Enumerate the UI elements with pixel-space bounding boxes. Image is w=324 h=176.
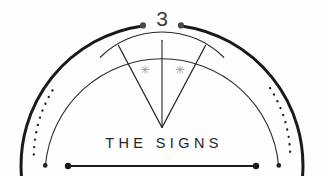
star-icon-left: ✳ bbox=[140, 63, 150, 77]
baseline-dot-right bbox=[253, 163, 259, 169]
inner-arc-cap-dot-left bbox=[43, 163, 48, 168]
inner-arc-cap-dot-right bbox=[277, 163, 282, 168]
emblem-canvas: 3 ✳ ✳ THE SIGNS bbox=[0, 0, 324, 176]
emblem-numeral: 3 bbox=[156, 7, 168, 30]
emblem-illustration: 3 ✳ ✳ THE SIGNS bbox=[0, 0, 324, 176]
outer-arc-cap-dot-right bbox=[178, 22, 184, 28]
outer-arc-cap-dot-left bbox=[140, 22, 146, 28]
emblem-title: THE SIGNS bbox=[105, 135, 223, 151]
star-icon-right: ✳ bbox=[175, 63, 185, 77]
baseline-dot-left bbox=[65, 163, 71, 169]
